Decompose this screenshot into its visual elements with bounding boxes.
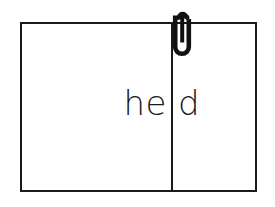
vertical-divider	[171, 22, 173, 192]
right-panel-text: d	[178, 83, 200, 123]
page-canvas: he d	[0, 0, 275, 207]
left-panel-text: he	[20, 83, 167, 123]
